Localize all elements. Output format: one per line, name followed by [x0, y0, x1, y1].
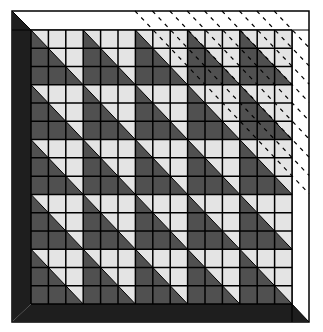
cell-light — [257, 85, 274, 103]
cell-dark — [101, 286, 118, 304]
cell-light — [153, 140, 170, 158]
cell-dark — [205, 286, 222, 304]
cell-dark — [31, 103, 48, 121]
quilt-grid-svg — [0, 0, 323, 332]
cell-light — [118, 249, 135, 267]
cell-light — [275, 158, 292, 176]
cell-dark — [135, 48, 152, 66]
cell-dark — [31, 176, 48, 194]
cell-dark — [83, 267, 100, 285]
cell-dark — [135, 176, 152, 194]
cell-light — [275, 103, 292, 121]
cell-light — [66, 194, 83, 212]
cell-light — [275, 267, 292, 285]
cell-light — [66, 158, 83, 176]
cell-light — [48, 140, 65, 158]
cell-light — [118, 158, 135, 176]
cell-dark — [31, 48, 48, 66]
cell-dark — [48, 286, 65, 304]
cell-dark — [188, 67, 205, 85]
cell-dark — [188, 213, 205, 231]
cell-light — [257, 194, 274, 212]
cell-light — [48, 194, 65, 212]
cell-dark — [240, 158, 257, 176]
cell-light — [222, 267, 239, 285]
cell-light — [48, 30, 65, 48]
cell-light — [101, 194, 118, 212]
cell-light — [66, 249, 83, 267]
cell-light — [66, 30, 83, 48]
cell-light — [170, 140, 187, 158]
cell-light — [275, 249, 292, 267]
cell-light — [275, 213, 292, 231]
cell-dark — [83, 103, 100, 121]
cell-dark — [83, 158, 100, 176]
cell-dark — [83, 231, 100, 249]
cell-light — [101, 140, 118, 158]
cell-dark — [31, 231, 48, 249]
cell-dark — [188, 286, 205, 304]
cell-light — [205, 85, 222, 103]
cell-dark — [257, 231, 274, 249]
cell-light — [66, 213, 83, 231]
cell-light — [222, 140, 239, 158]
cell-light — [170, 194, 187, 212]
cell-light — [118, 103, 135, 121]
cell-light — [275, 194, 292, 212]
cell-light — [66, 85, 83, 103]
cell-dark — [101, 176, 118, 194]
cell-light — [48, 85, 65, 103]
cell-light — [153, 249, 170, 267]
cell-dark — [240, 103, 257, 121]
cell-dark — [240, 213, 257, 231]
cell-light — [66, 103, 83, 121]
cell-light — [222, 213, 239, 231]
cell-light — [153, 194, 170, 212]
cell-dark — [83, 176, 100, 194]
cell-dark — [135, 213, 152, 231]
cell-dark — [31, 213, 48, 231]
cell-light — [66, 48, 83, 66]
cell-dark — [83, 286, 100, 304]
cell-light — [170, 85, 187, 103]
cell-dark — [205, 231, 222, 249]
cell-dark — [240, 231, 257, 249]
frame-bottom-band — [12, 304, 309, 322]
cell-dark — [31, 158, 48, 176]
cell-light — [170, 213, 187, 231]
cell-dark — [257, 67, 274, 85]
cell-dark — [153, 67, 170, 85]
cell-light — [118, 48, 135, 66]
cell-dark — [188, 267, 205, 285]
cell-dark — [135, 231, 152, 249]
cell-light — [48, 249, 65, 267]
cell-light — [222, 85, 239, 103]
cell-dark — [135, 267, 152, 285]
cell-dark — [205, 121, 222, 139]
cell-dark — [188, 231, 205, 249]
cell-light — [101, 249, 118, 267]
cell-light — [222, 194, 239, 212]
cell-light — [118, 140, 135, 158]
cell-dark — [101, 231, 118, 249]
cell-dark — [188, 121, 205, 139]
cell-light — [118, 30, 135, 48]
cell-light — [275, 85, 292, 103]
cell-light — [101, 30, 118, 48]
cell-light — [205, 249, 222, 267]
cell-dark — [135, 286, 152, 304]
cell-dark — [257, 286, 274, 304]
cell-light — [170, 103, 187, 121]
cell-light — [222, 158, 239, 176]
quilt-diagram: Quilt block grid with diagonal half-squa… — [0, 0, 323, 332]
cell-light — [66, 267, 83, 285]
cell-dark — [240, 286, 257, 304]
cell-dark — [135, 158, 152, 176]
cell-light — [205, 194, 222, 212]
cell-dark — [188, 176, 205, 194]
cell-dark — [48, 67, 65, 85]
cell-dark — [31, 121, 48, 139]
cell-dark — [48, 121, 65, 139]
cell-dark — [188, 158, 205, 176]
cell-dark — [135, 67, 152, 85]
